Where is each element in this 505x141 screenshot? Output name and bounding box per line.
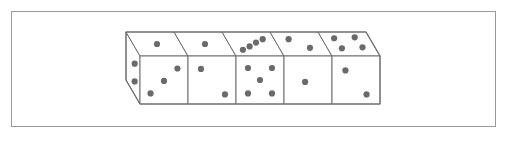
die-3-top-pip-4 xyxy=(260,36,266,42)
die-2-top-pip-1 xyxy=(202,41,208,47)
die-1-left-pip-1 xyxy=(132,61,138,67)
die-1-left-pip-2 xyxy=(132,78,138,84)
die-2-front-face xyxy=(188,56,236,104)
die-5-front-pip-1 xyxy=(342,67,348,73)
die-3-top-pip-3 xyxy=(253,39,259,45)
die-5-top-pip-3 xyxy=(339,45,345,51)
die-5-top-pip-2 xyxy=(352,34,358,40)
die-3-front-pip-4 xyxy=(245,90,251,96)
die-4-front-pip-1 xyxy=(302,79,308,85)
die-3-top-pip-2 xyxy=(247,43,253,49)
die-4-front-face xyxy=(284,56,332,104)
die-1-top-pip-1 xyxy=(154,41,160,47)
die-5-top-pip-1 xyxy=(331,35,337,41)
die-3-front-pip-5 xyxy=(269,90,275,96)
die-2-front-pip-2 xyxy=(222,91,228,97)
dice-figure-root xyxy=(0,0,505,141)
die-5-top-pip-4 xyxy=(359,44,365,50)
die-1-front-pip-2 xyxy=(161,78,167,84)
die-3-front-pip-1 xyxy=(245,65,251,71)
die-4-top-pip-1 xyxy=(286,36,292,42)
dice-block-group xyxy=(126,32,380,104)
die-2-front-pip-1 xyxy=(198,66,204,72)
die-4-top-pip-2 xyxy=(307,45,313,51)
die-3-top-pip-1 xyxy=(240,47,246,53)
die-3-front-pip-3 xyxy=(257,77,263,83)
die-5-front-face xyxy=(332,56,380,104)
die-1-front-pip-1 xyxy=(174,65,180,71)
dice-figure-svg xyxy=(0,0,505,141)
die-3-front-pip-2 xyxy=(269,65,275,71)
die-1-front-pip-3 xyxy=(147,90,153,96)
die-5-front-pip-2 xyxy=(363,91,369,97)
